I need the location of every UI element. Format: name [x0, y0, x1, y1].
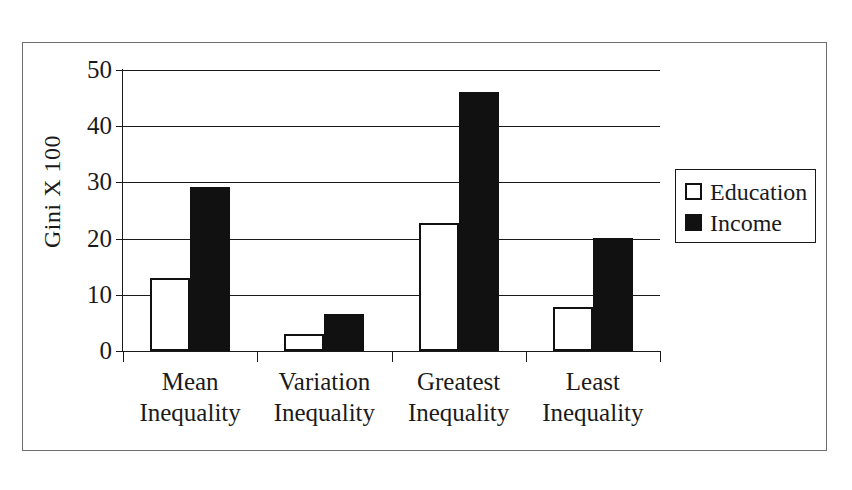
y-axis-tick-label: 0 — [52, 338, 112, 363]
bar-income-4 — [593, 238, 633, 351]
bar-education-3 — [419, 223, 459, 351]
x-axis-tick — [392, 351, 393, 362]
x-axis-label-line: Inequality — [392, 397, 526, 428]
y-axis-tick-labels: 50403020100 — [44, 0, 112, 490]
bar-income-1 — [190, 187, 230, 351]
y-axis-tick-label: 50 — [52, 57, 112, 82]
x-axis-tick — [257, 351, 258, 362]
bar-education-1 — [150, 278, 190, 351]
y-axis-tick — [116, 295, 124, 296]
x-axis-label-line: Mean — [123, 366, 257, 397]
bar-income-3 — [459, 92, 499, 351]
bar-education-2 — [284, 334, 324, 351]
y-axis-tick — [116, 126, 124, 127]
x-axis-label-4: LeastInequality — [526, 366, 660, 428]
bar-income-2 — [324, 314, 364, 351]
x-axis-label-1: MeanInequality — [123, 366, 257, 428]
x-axis-label-line: Least — [526, 366, 660, 397]
legend-item-education: Education — [685, 176, 815, 207]
legend-label-income: Income — [710, 211, 782, 235]
y-axis-tick-label: 10 — [52, 282, 112, 307]
x-axis-label-line: Inequality — [526, 397, 660, 428]
y-axis-tick-label: 20 — [52, 226, 112, 251]
x-axis-tick — [123, 351, 124, 362]
y-axis-tick — [116, 239, 124, 240]
gridline — [123, 126, 660, 127]
x-axis-tick — [526, 351, 527, 362]
legend-swatch-education-icon — [685, 183, 702, 200]
x-axis-label-line: Greatest — [392, 366, 526, 397]
y-axis-tick-label: 40 — [52, 113, 112, 138]
x-axis-label-2: VariationInequality — [257, 366, 391, 428]
chart-legend: Education Income — [675, 169, 816, 243]
x-axis-label-3: GreatestInequality — [392, 366, 526, 428]
bar-chart: Gini X 100 50403020100 MeanInequalityVar… — [0, 0, 852, 490]
x-axis-tick — [660, 351, 661, 362]
y-axis-tick-label: 30 — [52, 169, 112, 194]
y-axis-tick — [116, 182, 124, 183]
x-axis-label-line: Variation — [257, 366, 391, 397]
x-axis-category-labels: MeanInequalityVariationInequalityGreates… — [123, 366, 660, 446]
x-axis-label-line: Inequality — [123, 397, 257, 428]
bar-education-4 — [553, 307, 593, 351]
plot-area — [123, 70, 660, 351]
y-axis-tick — [116, 70, 124, 71]
x-axis-label-line: Inequality — [257, 397, 391, 428]
legend-item-income: Income — [685, 207, 815, 238]
legend-swatch-income-icon — [685, 214, 702, 231]
gridline — [123, 182, 660, 183]
gridline — [123, 70, 660, 71]
legend-label-education: Education — [710, 180, 807, 204]
